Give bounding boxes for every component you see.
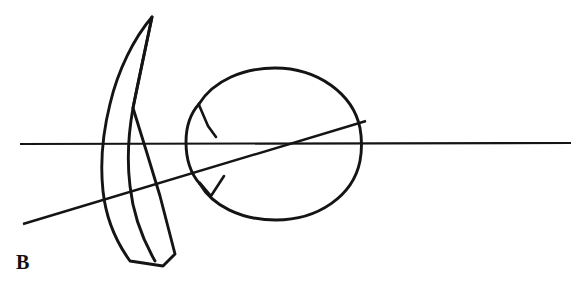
panel-label: B	[16, 252, 30, 272]
eye-schematic-drawing	[0, 0, 580, 291]
figure-panel: B	[0, 0, 580, 291]
limbus-tick-upper-icon	[199, 105, 216, 137]
limbus-tick-lower-icon	[200, 176, 224, 196]
oblique-axis-line	[23, 121, 366, 224]
